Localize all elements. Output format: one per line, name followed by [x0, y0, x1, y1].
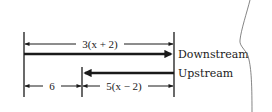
- bottom-left-label: 6: [49, 80, 55, 92]
- top-dimension-label: 3(x + 2): [82, 38, 118, 51]
- upstream-label: Upstream: [178, 67, 234, 80]
- bottom-left-dimension: 6: [25, 80, 81, 92]
- downstream-label: Downstream: [178, 48, 249, 61]
- diagram-canvas: 3(x + 2) Downstream Upstream 6 5(x − 2): [0, 0, 272, 112]
- bottom-right-label: 5(x − 2): [106, 80, 142, 93]
- top-dimension: 3(x + 2): [25, 38, 173, 51]
- bottom-right-dimension: 5(x − 2): [83, 80, 173, 93]
